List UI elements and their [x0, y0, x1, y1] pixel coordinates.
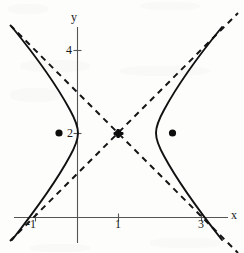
- y-tick-label-2: 2: [67, 127, 73, 139]
- x-tick-label-neg1: -1: [26, 218, 36, 230]
- focus-left-dot: [55, 129, 62, 136]
- y-tick-label-4: 4: [66, 44, 72, 56]
- plot-canvas: [0, 0, 244, 253]
- x-tick-label-3: 3: [198, 218, 204, 230]
- focus-right-dot: [169, 129, 176, 136]
- x-axis-label: x: [231, 209, 237, 221]
- asymptote-positive-slope: [10, 13, 238, 241]
- y-axis-label: y: [71, 11, 77, 23]
- x-tick-label-1: 1: [115, 218, 121, 230]
- hyperbola-figure: y x 4 2 -1 1 3: [0, 0, 244, 253]
- hyperbola-right-branch: [156, 27, 222, 240]
